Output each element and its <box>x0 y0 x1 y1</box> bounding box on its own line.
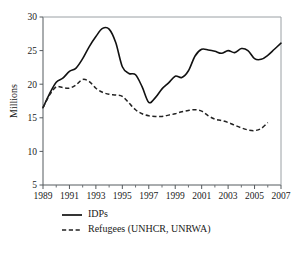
y-tick-label: 20 <box>28 80 38 90</box>
y-tick-label: 25 <box>28 46 38 56</box>
x-tick-label: 1991 <box>60 191 79 201</box>
x-tick-label: 2005 <box>245 191 264 201</box>
x-tick-label: 1995 <box>113 191 132 201</box>
series-line-idps <box>43 27 281 107</box>
x-tick-label: 1993 <box>86 191 105 201</box>
x-tick-label: 1989 <box>34 191 53 201</box>
plot-frame <box>43 17 281 185</box>
x-tick-label: 2001 <box>192 191 211 201</box>
x-tick-label: 1999 <box>166 191 185 201</box>
legend-label: IDPs <box>88 208 108 219</box>
y-tick-label: 15 <box>28 113 38 123</box>
y-tick-label: 5 <box>32 180 37 190</box>
line-chart: 51015202530 1989199119931995199719992001… <box>0 0 297 264</box>
x-axis-ticks: 1989199119931995199719992001200320052007 <box>34 185 291 201</box>
chart-figure: 51015202530 1989199119931995199719992001… <box>0 0 297 264</box>
y-axis-ticks: 51015202530 <box>28 12 44 190</box>
y-axis-title-label: Millions <box>8 84 19 118</box>
x-tick-label: 2007 <box>272 191 291 201</box>
y-axis-title: Millions <box>8 84 19 118</box>
legend-label: Refugees (UNHCR, UNRWA) <box>88 223 211 235</box>
series-line-refugees-unhcr-unrwa <box>43 79 268 130</box>
x-tick-label: 1997 <box>139 191 158 201</box>
y-tick-label: 30 <box>28 12 38 22</box>
y-tick-label: 10 <box>28 147 38 157</box>
data-series-group <box>43 27 281 130</box>
chart-legend: IDPsRefugees (UNHCR, UNRWA) <box>62 208 211 235</box>
x-tick-label: 2003 <box>219 191 238 201</box>
